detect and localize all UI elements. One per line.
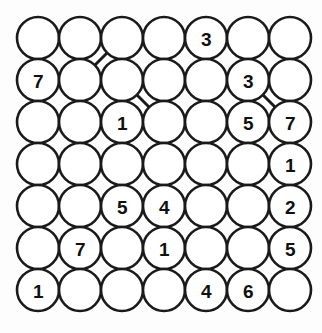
node-circle[interactable] <box>269 17 311 59</box>
node-r4c1[interactable] <box>17 143 59 185</box>
node-circle[interactable] <box>59 59 101 101</box>
node-circle[interactable] <box>17 17 59 59</box>
node-circle[interactable] <box>101 59 143 101</box>
node-circle[interactable] <box>185 185 227 227</box>
node-circle[interactable] <box>59 227 101 269</box>
node-r3c2[interactable] <box>59 101 101 143</box>
node-circle[interactable] <box>17 143 59 185</box>
node-circle[interactable] <box>143 227 185 269</box>
node-circle[interactable] <box>269 185 311 227</box>
edge-diagonal[interactable] <box>136 94 150 108</box>
node-circle[interactable] <box>185 59 227 101</box>
node-circle[interactable] <box>59 269 101 311</box>
node-circle[interactable] <box>227 269 269 311</box>
edge-diagonal[interactable] <box>262 94 276 108</box>
node-circle[interactable] <box>143 185 185 227</box>
node-r5c3[interactable]: 5 <box>101 185 143 227</box>
node-circle[interactable] <box>269 101 311 143</box>
node-r6c1[interactable] <box>17 227 59 269</box>
node-circle[interactable] <box>269 269 311 311</box>
node-circle[interactable] <box>101 185 143 227</box>
node-circle[interactable] <box>227 227 269 269</box>
node-r3c5[interactable] <box>185 101 227 143</box>
node-circle[interactable] <box>143 17 185 59</box>
node-circle[interactable] <box>227 185 269 227</box>
node-circle[interactable] <box>227 59 269 101</box>
node-r3c3[interactable]: 1 <box>101 101 143 143</box>
node-circle[interactable] <box>143 59 185 101</box>
node-r6c7[interactable]: 5 <box>269 227 311 269</box>
node-r4c2[interactable] <box>59 143 101 185</box>
node-circle[interactable] <box>143 101 185 143</box>
node-circle[interactable] <box>59 185 101 227</box>
node-r1c5[interactable]: 3 <box>185 17 227 59</box>
node-circle[interactable] <box>101 143 143 185</box>
node-circle[interactable] <box>143 269 185 311</box>
node-r7c2[interactable] <box>59 269 101 311</box>
node-circle[interactable] <box>17 185 59 227</box>
node-r3c1[interactable] <box>17 101 59 143</box>
node-circle[interactable] <box>17 59 59 101</box>
node-circle[interactable] <box>101 101 143 143</box>
node-circle[interactable] <box>227 17 269 59</box>
node-r1c6[interactable] <box>227 17 269 59</box>
node-circle[interactable] <box>101 227 143 269</box>
node-r4c3[interactable] <box>101 143 143 185</box>
edge-diagonal[interactable] <box>94 52 108 66</box>
node-r7c6[interactable]: 6 <box>227 269 269 311</box>
node-circle[interactable] <box>59 143 101 185</box>
node-r6c6[interactable] <box>227 227 269 269</box>
node-r5c2[interactable] <box>59 185 101 227</box>
node-r1c7[interactable] <box>269 17 311 59</box>
node-r2c4[interactable] <box>143 59 185 101</box>
node-r2c3[interactable] <box>101 59 143 101</box>
node-circle[interactable] <box>17 227 59 269</box>
node-r5c4[interactable]: 4 <box>143 185 185 227</box>
node-r7c1[interactable]: 1 <box>17 269 59 311</box>
node-circle[interactable] <box>17 101 59 143</box>
node-r4c6[interactable] <box>227 143 269 185</box>
node-r1c3[interactable] <box>101 17 143 59</box>
node-circle[interactable] <box>185 143 227 185</box>
node-circle[interactable] <box>17 269 59 311</box>
node-r5c1[interactable] <box>17 185 59 227</box>
node-r4c5[interactable] <box>185 143 227 185</box>
node-r6c4[interactable]: 1 <box>143 227 185 269</box>
node-r7c5[interactable]: 4 <box>185 269 227 311</box>
node-r2c2[interactable] <box>59 59 101 101</box>
node-r4c7[interactable]: 1 <box>269 143 311 185</box>
node-r6c3[interactable] <box>101 227 143 269</box>
node-r3c6[interactable]: 5 <box>227 101 269 143</box>
node-circle[interactable] <box>227 143 269 185</box>
node-circle[interactable] <box>227 101 269 143</box>
node-r6c5[interactable] <box>185 227 227 269</box>
node-r7c4[interactable] <box>143 269 185 311</box>
node-r1c1[interactable] <box>17 17 59 59</box>
node-circle[interactable] <box>269 143 311 185</box>
node-r1c2[interactable] <box>59 17 101 59</box>
node-circle[interactable] <box>143 143 185 185</box>
node-circle[interactable] <box>59 101 101 143</box>
node-circle[interactable] <box>185 227 227 269</box>
node-r7c7[interactable] <box>269 269 311 311</box>
node-r6c2[interactable]: 7 <box>59 227 101 269</box>
node-circle[interactable] <box>269 227 311 269</box>
node-r1c4[interactable] <box>143 17 185 59</box>
node-r2c7[interactable] <box>269 59 311 101</box>
node-circle[interactable] <box>185 17 227 59</box>
node-circle[interactable] <box>101 269 143 311</box>
node-r5c5[interactable] <box>185 185 227 227</box>
node-r2c6[interactable]: 3 <box>227 59 269 101</box>
node-circle[interactable] <box>185 269 227 311</box>
node-r7c3[interactable] <box>101 269 143 311</box>
node-circle[interactable] <box>101 17 143 59</box>
node-circle[interactable] <box>59 17 101 59</box>
node-r5c6[interactable] <box>227 185 269 227</box>
node-r2c5[interactable] <box>185 59 227 101</box>
node-r5c7[interactable]: 2 <box>269 185 311 227</box>
node-r3c7[interactable]: 7 <box>269 101 311 143</box>
node-r3c4[interactable] <box>143 101 185 143</box>
node-r2c1[interactable]: 7 <box>17 59 59 101</box>
node-circle[interactable] <box>269 59 311 101</box>
node-circle[interactable] <box>185 101 227 143</box>
